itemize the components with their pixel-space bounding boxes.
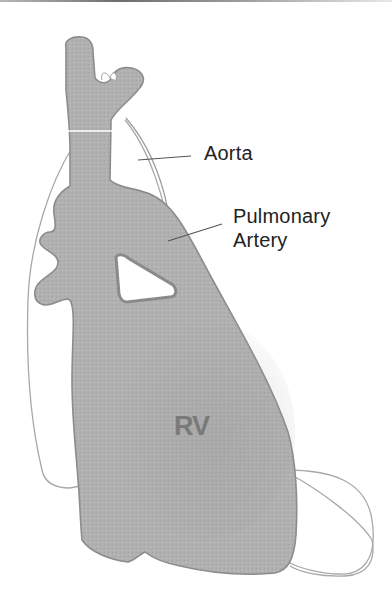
figure-canvas: Aorta Pulmonary Artery RV [0, 0, 392, 611]
aorta-leader-line [138, 156, 191, 160]
heart-diagram [0, 0, 392, 611]
pulmonary-artery-label-line2: Artery [233, 229, 288, 252]
right-ventricle-label: RV [174, 411, 209, 442]
branch-valve-marks [102, 73, 117, 80]
pulmonary-artery-label-line1: Pulmonary [233, 205, 330, 228]
aorta-label: Aorta [204, 142, 253, 165]
right-border-outline [288, 473, 373, 576]
